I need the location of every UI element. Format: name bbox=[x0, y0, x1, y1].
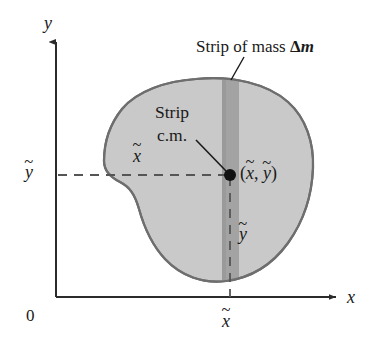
y-tilde-inner-label: ~y bbox=[239, 225, 247, 243]
y-tilde-axis-tick-label: ~y bbox=[25, 163, 33, 181]
mass-strip-edge-left bbox=[222, 60, 226, 300]
paren-close: ) bbox=[271, 163, 277, 183]
tilde-accent-y-axis: ~ bbox=[24, 154, 33, 171]
y-tilde-coord: ~y bbox=[263, 164, 271, 182]
tilde-accent-x: ~ bbox=[246, 154, 255, 171]
strip-of-mass-label: Strip of mass Δm bbox=[196, 38, 314, 55]
x-tilde-inner-label: ~x bbox=[133, 147, 141, 165]
y-tilde-inner-glyph: ~y bbox=[239, 225, 247, 243]
leader-line-strip-mass bbox=[231, 57, 244, 80]
mass-variable: m bbox=[301, 37, 314, 56]
y-tilde-axis-glyph: ~y bbox=[25, 163, 33, 181]
tilde-accent-y: ~ bbox=[262, 155, 271, 172]
strip-cm-line-2: c.m. bbox=[155, 127, 189, 145]
strip-cm-line-1: Strip bbox=[155, 102, 189, 122]
tilde-accent-x-axis: ~ bbox=[222, 302, 231, 319]
strip-of-mass-text: Strip of mass bbox=[196, 37, 290, 56]
x-tilde-axis-tick-label: ~x bbox=[222, 312, 230, 330]
x-tilde-inner-glyph: ~x bbox=[133, 147, 141, 165]
origin-label: 0 bbox=[26, 307, 35, 324]
y-axis-label: y bbox=[44, 14, 52, 32]
x-tilde-axis-glyph: ~x bbox=[222, 312, 230, 330]
center-of-mass-figure: Strip of mass Δm Strip c.m. (~x, ~y) y x… bbox=[0, 0, 372, 351]
delta-symbol: Δ bbox=[290, 37, 301, 56]
figure-canvas bbox=[0, 0, 372, 351]
x-axis-label: x bbox=[347, 288, 355, 306]
coordinate-pair-label: (~x, ~y) bbox=[240, 164, 277, 182]
x-tilde-coord: ~x bbox=[246, 164, 254, 182]
tilde-accent-x-inner: ~ bbox=[133, 137, 142, 154]
tilde-accent-y-inner: ~ bbox=[238, 216, 247, 233]
strip-cm-label: Strip c.m. bbox=[155, 104, 189, 144]
strip-cm-dot bbox=[224, 169, 236, 181]
